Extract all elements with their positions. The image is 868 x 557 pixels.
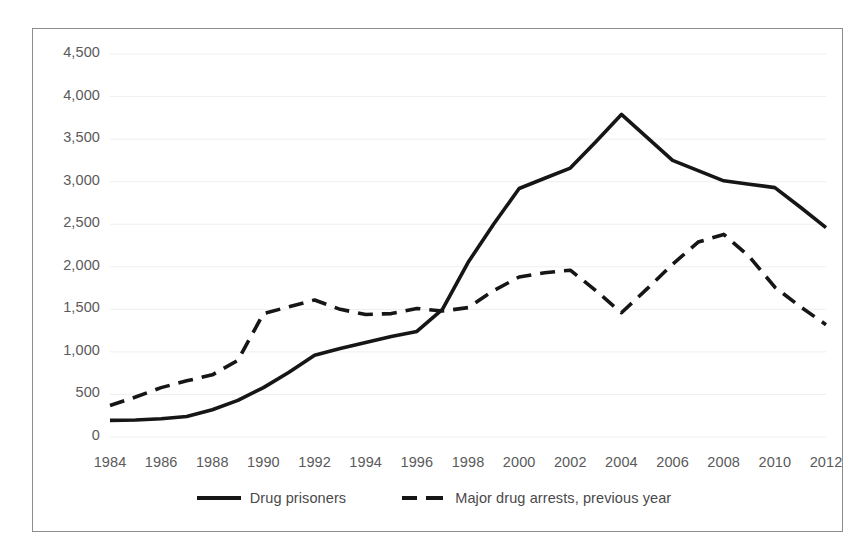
- legend-line-dashed-icon: [402, 496, 446, 500]
- gridlines: [110, 54, 826, 437]
- legend-line-solid-icon: [197, 496, 241, 500]
- chart-legend: Drug prisonersMajor drug arrests, previo…: [0, 490, 868, 506]
- series-lines: [110, 114, 826, 420]
- series-line-0: [110, 114, 826, 420]
- chart-plot-area: [0, 0, 868, 557]
- legend-entry-0[interactable]: Drug prisoners: [197, 490, 347, 506]
- legend-label: Major drug arrests, previous year: [455, 490, 671, 506]
- legend-entry-1[interactable]: Major drug arrests, previous year: [402, 490, 671, 506]
- legend-label: Drug prisoners: [250, 490, 347, 506]
